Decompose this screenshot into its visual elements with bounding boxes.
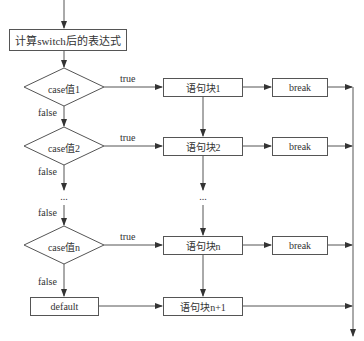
statement-block-n-plus-1: 语句块n+1 xyxy=(163,297,243,316)
false-label-between: false xyxy=(38,207,57,219)
break-label-n: break xyxy=(289,240,311,251)
statement-block-n-plus-1-label: 语句块n+1 xyxy=(180,299,226,314)
break-box-2: break xyxy=(272,137,328,156)
statement-block-2-label: 语句块2 xyxy=(186,139,221,154)
break-label-2: break xyxy=(289,141,311,152)
true-label-2: true xyxy=(120,132,136,144)
statement-block-n-label: 语句块n xyxy=(186,238,221,253)
break-label-1: break xyxy=(289,82,311,93)
compute-expression-label: 计算switch后的表达式 xyxy=(15,32,121,48)
statement-block-1: 语句块1 xyxy=(163,78,243,97)
condition-case2-label: case值2 xyxy=(48,140,80,155)
condition-case1-label: case值1 xyxy=(48,81,80,96)
statement-block-1-label: 语句块1 xyxy=(186,80,221,95)
true-label-n: true xyxy=(120,231,136,243)
false-label-n: false xyxy=(38,276,57,288)
false-label-1: false xyxy=(38,107,57,119)
ellipsis-left: ... xyxy=(60,191,68,203)
true-label-1: true xyxy=(120,73,136,85)
ellipsis-right: ... xyxy=(199,191,207,203)
false-label-2: false xyxy=(38,166,57,178)
statement-block-2: 语句块2 xyxy=(163,137,243,156)
default-box: default xyxy=(30,297,99,316)
statement-block-n: 语句块n xyxy=(163,236,243,255)
condition-casen-label: case值n xyxy=(48,239,80,254)
default-label: default xyxy=(51,301,79,312)
break-box-1: break xyxy=(272,78,328,97)
compute-expression-box: 计算switch后的表达式 xyxy=(9,29,127,51)
break-box-n: break xyxy=(272,236,328,255)
